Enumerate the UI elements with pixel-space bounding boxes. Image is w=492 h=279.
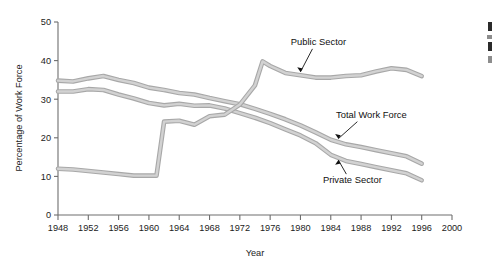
x-axis-title: Year — [246, 248, 265, 258]
y-tick-label: 30 — [41, 95, 51, 105]
series-outline — [58, 76, 422, 164]
x-tick-label: 1952 — [78, 223, 98, 233]
x-tick-label: 1996 — [411, 223, 431, 233]
y-tick-label: 40 — [41, 56, 51, 66]
line-chart: 01020304050 1948195219561960196419681972… — [0, 0, 492, 279]
x-tick-label: 1968 — [199, 223, 219, 233]
x-axis-ticks: 1948195219561960196419681972197619801984… — [48, 215, 462, 233]
x-tick-label: 1956 — [108, 223, 128, 233]
x-tick-label: 1948 — [48, 223, 68, 233]
x-tick-label: 2000 — [442, 223, 462, 233]
annotation-label: Public Sector — [291, 36, 346, 47]
x-tick-label: 1992 — [381, 223, 401, 233]
chart-container: 01020304050 1948195219561960196419681972… — [0, 0, 492, 279]
chart-series-layer — [58, 61, 422, 180]
x-tick-label: 1960 — [139, 223, 159, 233]
y-tick-label: 10 — [41, 172, 51, 182]
y-tick-label: 50 — [41, 17, 51, 27]
y-tick-label: 20 — [41, 133, 51, 143]
annotation-label: Total Work Force — [336, 109, 407, 120]
annotation-leader-line — [338, 122, 357, 139]
cropped-edge-marks — [487, 22, 492, 63]
series-total-work-force — [58, 76, 422, 164]
x-tick-label: 1964 — [169, 223, 189, 233]
annotation-arrowhead — [335, 134, 341, 139]
y-tick-label: 0 — [46, 210, 51, 220]
annotation-label: Private Sector — [323, 174, 382, 185]
x-tick-label: 1984 — [321, 223, 341, 233]
y-axis-ticks: 01020304050 — [41, 17, 58, 220]
x-tick-label: 1980 — [290, 223, 310, 233]
x-tick-label: 1976 — [260, 223, 280, 233]
y-axis-title: Percentage of Work Force — [14, 64, 24, 171]
x-tick-label: 1972 — [230, 223, 250, 233]
x-tick-label: 1988 — [351, 223, 371, 233]
